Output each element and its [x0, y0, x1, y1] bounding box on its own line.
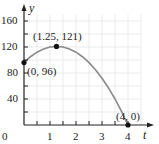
point-label-vertex: (1.25, 121) — [33, 30, 82, 43]
x-axis-title: t — [143, 128, 147, 142]
point-label-start: (0, 96) — [27, 65, 57, 78]
y-axis-title: y — [28, 1, 35, 15]
x-tick-label-3: 3 — [99, 130, 105, 142]
x-tick-label-2: 2 — [73, 130, 79, 142]
x-tick-label-0: 0 — [2, 130, 8, 142]
y-tick-label-40: 40 — [7, 92, 19, 104]
y-tick-label-80: 80 — [7, 66, 19, 78]
y-tick-label-120: 120 — [1, 40, 18, 52]
point-label-end: (4, 0) — [116, 110, 140, 123]
x-axis-arrow-icon — [147, 123, 154, 128]
chart: y t 0 1 2 3 4 160 120 80 40 (0, 96) (1.2… — [0, 0, 159, 144]
x-tick-label-1: 1 — [47, 130, 53, 142]
point-vertex — [54, 44, 59, 49]
y-tick-label-160: 160 — [1, 14, 18, 26]
point-start — [21, 60, 26, 65]
y-axis-arrow-icon — [22, 4, 27, 11]
point-end — [125, 122, 130, 127]
x-tick-label-4: 4 — [125, 130, 131, 142]
